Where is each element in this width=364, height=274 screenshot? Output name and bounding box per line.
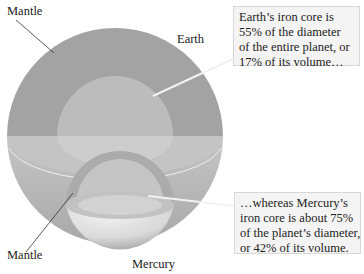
earth-mantle-label: Mantle	[7, 5, 42, 18]
callout-line: 17% of its volume…	[239, 55, 354, 70]
earth-core-callout: Earth’s iron core is 55% of the diameter…	[233, 6, 360, 66]
mercury-core-section	[78, 195, 162, 215]
callout-line: …whereas Mercury’s	[240, 196, 355, 211]
mercury-mantle-label: Mantle	[7, 249, 42, 262]
callout-line: of the entire planet, or	[239, 40, 354, 55]
earth-label: Earth	[177, 33, 204, 46]
callout-line: iron core is about 75%	[240, 211, 355, 226]
mercury-label: Mercury	[132, 258, 175, 271]
callout-line: or 42% of its volume.	[240, 241, 355, 256]
callout-line: Earth’s iron core is	[239, 10, 354, 25]
earth-mantle-leader	[16, 20, 54, 53]
mercury-core-callout: …whereas Mercury’s iron core is about 75…	[234, 192, 361, 254]
callout-line: of the planet’s diameter,	[240, 226, 355, 241]
callout-line: 55% of the diameter	[239, 25, 354, 40]
